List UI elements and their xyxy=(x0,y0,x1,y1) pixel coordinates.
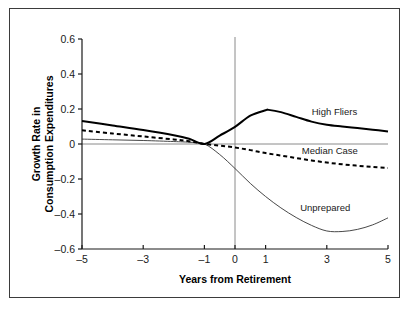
y-tick-label: –0.4 xyxy=(55,208,76,220)
y-axis-title-line2: Consumption Expenditures xyxy=(43,75,55,212)
x-tick-label: –1 xyxy=(199,253,211,265)
y-tick-label: 0.4 xyxy=(60,68,75,80)
x-tick-label: 0 xyxy=(232,253,238,265)
y-axis-tick-labels: –0.6–0.4–0.200.20.40.6 xyxy=(55,33,76,255)
y-tick-label: 0.2 xyxy=(60,103,75,115)
x-tick-label: –5 xyxy=(76,253,88,265)
x-tick-label: 5 xyxy=(385,253,391,265)
unprepared-label: Unprepared xyxy=(300,202,350,213)
y-tick-label: 0 xyxy=(69,138,75,150)
y-tick-label: –0.2 xyxy=(55,173,76,185)
y-tick-label: 0.6 xyxy=(60,33,75,45)
series-annotations: High FliersMedian CaseUnprepared xyxy=(300,106,358,213)
x-axis-tick-labels: –5–3–10135 xyxy=(76,253,391,265)
x-tick-label: –3 xyxy=(137,253,149,265)
line-chart-canvas: –0.6–0.4–0.200.20.40.6 –5–3–10135 High F… xyxy=(10,9,399,297)
x-axis-title: Years from Retirement xyxy=(179,273,292,285)
y-axis-title-line1: Growth Rate in xyxy=(30,107,42,182)
median-case-label: Median Case xyxy=(302,145,358,156)
high-fliers-label: High Fliers xyxy=(312,106,358,117)
x-tick-label: 3 xyxy=(324,253,330,265)
chart-figure: –0.6–0.4–0.200.20.40.6 –5–3–10135 High F… xyxy=(0,0,418,311)
reference-lines xyxy=(82,37,388,249)
y-tick-label: –0.6 xyxy=(55,243,76,255)
chart-frame: –0.6–0.4–0.200.20.40.6 –5–3–10135 High F… xyxy=(9,8,400,298)
x-tick-label: 1 xyxy=(263,253,269,265)
